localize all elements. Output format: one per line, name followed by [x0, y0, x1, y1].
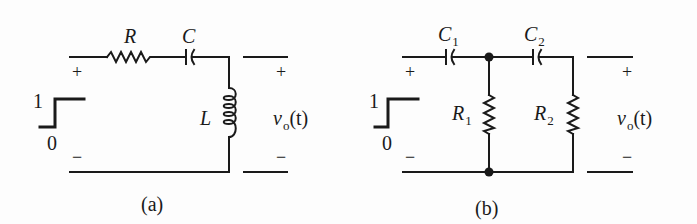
inductor-l-icon	[224, 88, 236, 137]
circuit-figure: 1 0 + − R C L + − vo(t) (a) 1 0 + − C1 C…	[0, 0, 697, 224]
circuit-drawing	[0, 0, 697, 224]
caption-b: (b)	[475, 198, 498, 218]
output-voltage-label-a: vo(t)	[273, 108, 308, 128]
step-input-b-icon	[375, 99, 418, 127]
step-high-label-a: 1	[33, 91, 43, 111]
input-plus-a: +	[72, 63, 82, 81]
circuit-b-wires	[403, 50, 632, 172]
step-input-a-icon	[40, 99, 84, 127]
resistor-label-r2: R2	[534, 103, 554, 123]
junction-top-dot	[485, 53, 494, 62]
resistor-label-r: R	[124, 26, 136, 46]
capacitor-label-c2: C2	[524, 24, 545, 44]
resistor-r-icon	[107, 52, 153, 62]
step-low-label-b: 0	[382, 133, 392, 153]
step-high-label-b: 1	[369, 91, 379, 111]
resistor-r2-icon	[568, 95, 578, 134]
input-plus-b: +	[405, 63, 415, 81]
output-minus-a: −	[276, 148, 286, 166]
step-low-label-a: 0	[47, 133, 57, 153]
circuit-a-wires	[70, 50, 287, 172]
output-voltage-label-b: vo(t)	[617, 108, 652, 128]
resistor-label-r1: R1	[452, 103, 472, 123]
junction-bottom-dot	[485, 168, 494, 177]
output-plus-b: +	[622, 63, 632, 81]
output-minus-b: −	[622, 148, 632, 166]
capacitor-label-c1: C1	[438, 24, 459, 44]
caption-a: (a)	[141, 194, 163, 214]
capacitor-label-c: C	[182, 26, 195, 46]
output-plus-a: +	[276, 63, 286, 81]
input-minus-a: −	[72, 148, 82, 166]
inductor-label-l: L	[200, 108, 211, 128]
input-minus-b: −	[405, 148, 415, 166]
resistor-r1-icon	[484, 95, 494, 134]
